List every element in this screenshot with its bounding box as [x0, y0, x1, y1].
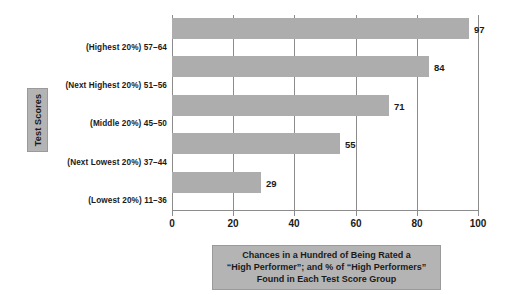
category-label: (Next Highest 20%) 51–56: [65, 81, 167, 90]
x-tick-40: [294, 211, 295, 216]
x-axis-line: [172, 210, 479, 211]
x-tick-label: 40: [288, 218, 299, 229]
category-label: (Middle 20%) 45–50: [90, 119, 167, 128]
bar-chart: Test Scores (Highest 20%) 57–64 (Next Hi…: [0, 0, 515, 295]
bar[interactable]: [172, 133, 340, 154]
caption-line-3: Found in Each Test Score Group: [217, 273, 436, 285]
x-tick-0: [172, 211, 173, 216]
x-tick-20: [233, 211, 234, 216]
bar-value-label: 71: [394, 100, 405, 111]
bar[interactable]: [172, 172, 261, 193]
category-label: (Lowest 20%) 11–36: [88, 196, 167, 205]
bar-value-label: 29: [266, 177, 277, 188]
x-tick-label: 20: [227, 218, 238, 229]
bar-value-label: 55: [345, 138, 356, 149]
category-label: (Next Lowest 20%) 37–44: [67, 158, 167, 167]
bar[interactable]: [172, 56, 429, 77]
x-tick-60: [356, 211, 357, 216]
plot-area: 97 84 71 55 29 0 20 40 60 80 100: [172, 18, 478, 210]
caption-line-1: Chances in a Hundred of Being Rated a: [217, 249, 436, 261]
category-label: (Highest 20%) 57–64: [86, 43, 167, 52]
caption-line-2: “High Performer”; and % of “High Perform…: [217, 261, 436, 273]
x-axis-title-box: Chances in a Hundred of Being Rated a “H…: [212, 245, 441, 290]
bar-value-label: 97: [474, 23, 485, 34]
category-axis-labels: (Highest 20%) 57–64 (Next Highest 20%) 5…: [40, 18, 170, 210]
bar[interactable]: [172, 95, 389, 116]
x-tick-80: [417, 211, 418, 216]
bar-value-label: 84: [434, 61, 445, 72]
x-tick-label: 100: [470, 218, 487, 229]
x-tick-100: [478, 211, 479, 216]
x-tick-label: 0: [169, 218, 175, 229]
bar[interactable]: [172, 18, 469, 39]
x-tick-label: 60: [350, 218, 361, 229]
gridline-100: [478, 15, 479, 210]
x-tick-label: 80: [411, 218, 422, 229]
gridline-80: [417, 15, 418, 210]
